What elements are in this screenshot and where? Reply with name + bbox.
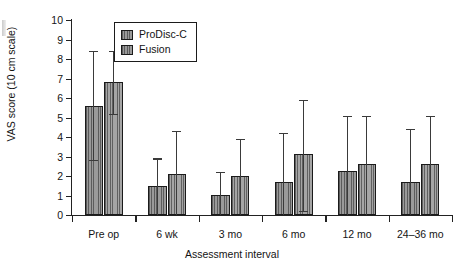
- x-axis-title: Assessment interval: [0, 248, 464, 260]
- y-axis-tick: [66, 40, 72, 41]
- y-axis-tick-label: 0: [57, 210, 63, 221]
- x-axis-tick: [72, 215, 73, 222]
- y-axis-tick-label: 5: [57, 112, 63, 123]
- y-axis-tick: [66, 59, 72, 60]
- x-axis-tick: [452, 215, 453, 222]
- chart-legend: ProDisc-C Fusion: [114, 22, 197, 62]
- y-axis-tick: [66, 176, 72, 177]
- y-axis-tick: [66, 157, 72, 158]
- error-bar-line: [176, 131, 177, 215]
- error-bar-line: [366, 116, 367, 215]
- y-axis-tick: [66, 196, 72, 197]
- error-bar-line: [220, 172, 221, 215]
- x-axis-group-label: 12 mo: [342, 229, 371, 240]
- x-axis-group-label: 3 mo: [219, 229, 242, 240]
- legend-swatch-icon-prodisc-c: [121, 30, 133, 40]
- legend-label-fusion: Fusion: [139, 44, 171, 55]
- error-bar-cap-upper: [343, 116, 352, 117]
- y-axis-tick-label: 8: [57, 54, 63, 65]
- error-bar-line: [410, 129, 411, 215]
- y-axis-tick: [66, 118, 72, 119]
- legend-swatch-icon-fusion: [121, 45, 133, 55]
- y-axis-tick-label: 4: [57, 132, 63, 143]
- error-bar-cap-lower: [89, 160, 98, 161]
- error-bar-cap-upper: [89, 51, 98, 52]
- x-axis-tick: [262, 215, 263, 222]
- y-axis-tick-label: 2: [57, 171, 63, 182]
- y-axis-tick: [66, 79, 72, 80]
- error-bar-cap-upper: [426, 116, 435, 117]
- x-axis-group-label: 24–36 mo: [397, 229, 444, 240]
- y-axis-tick-label: 9: [57, 34, 63, 45]
- error-bar-cap-lower: [109, 114, 118, 115]
- x-axis-group-label: 6 wk: [156, 229, 178, 240]
- x-axis-tick: [199, 215, 200, 222]
- y-axis-tick: [66, 137, 72, 138]
- y-axis-tick: [66, 20, 72, 21]
- error-bar-line: [157, 158, 158, 215]
- x-axis-group-label: 6 mo: [282, 229, 305, 240]
- error-bar-cap-upper: [236, 139, 245, 140]
- error-bar-line: [303, 100, 304, 211]
- y-axis-tick-label: 6: [57, 93, 63, 104]
- error-bar-line: [240, 139, 241, 215]
- y-axis-tick-label: 10: [51, 15, 63, 26]
- error-bar-cap-upper: [279, 133, 288, 134]
- legend-label-prodisc-c: ProDisc-C: [139, 29, 187, 40]
- error-bar-cap-upper: [362, 116, 371, 117]
- error-bar-line: [93, 51, 94, 160]
- error-bar-cap-upper: [172, 131, 181, 132]
- error-bar-cap-upper: [216, 172, 225, 173]
- vas-score-bar-chart-figure: 012345678910 Pre op6 wk3 mo6 mo12 mo24–3…: [0, 0, 464, 270]
- error-bar-cap-upper: [153, 158, 162, 159]
- y-axis-title: VAS score (10 cm scale): [5, 0, 17, 169]
- error-bar-cap-upper: [299, 100, 308, 101]
- y-axis-tick: [66, 98, 72, 99]
- y-axis-tick-label: 1: [57, 190, 63, 201]
- legend-item-fusion: Fusion: [121, 42, 187, 57]
- error-bar-line: [347, 116, 348, 215]
- error-bar-cap-upper: [406, 129, 415, 130]
- legend-item-prodisc-c: ProDisc-C: [121, 27, 187, 42]
- x-axis-tick: [389, 215, 390, 222]
- error-bar-line: [430, 116, 431, 215]
- x-axis-group-label: Pre op: [88, 229, 119, 240]
- error-bar-cap-lower: [299, 211, 308, 212]
- y-axis-tick-label: 3: [57, 151, 63, 162]
- x-axis-tick: [325, 215, 326, 222]
- y-axis-tick-label: 7: [57, 73, 63, 84]
- x-axis-tick: [135, 215, 136, 222]
- error-bar-line: [283, 133, 284, 215]
